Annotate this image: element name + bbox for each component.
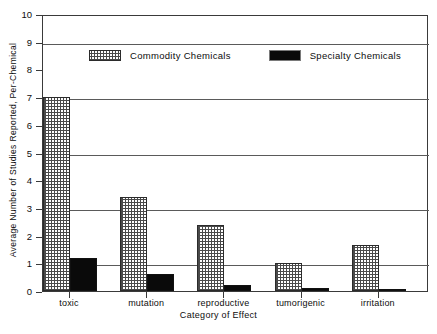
x-tick-label-irritation: irritation xyxy=(333,297,423,309)
y-tick-label: 1 xyxy=(14,259,32,269)
legend-label-commodity: Commodity Chemicals xyxy=(130,50,231,61)
plot-area: Commodity Chemicals Specialty Chemicals xyxy=(42,15,428,292)
bar-chart: Average Number of Studies Reported, Per-… xyxy=(0,0,437,334)
bar-irritation-commodity xyxy=(352,245,379,291)
y-tick-label: 8 xyxy=(14,65,32,75)
y-tick-label: 2 xyxy=(14,232,32,242)
bar-irritation-specialty xyxy=(379,289,406,291)
bar-reproductive-commodity xyxy=(197,225,224,291)
y-tick-label: 5 xyxy=(14,149,32,159)
legend-entry-specialty: Specialty Chemicals xyxy=(269,50,401,61)
x-axis-title: Category of Effect xyxy=(0,310,437,320)
bar-tumorigenic-commodity xyxy=(275,263,302,291)
legend-entry-commodity: Commodity Chemicals xyxy=(89,50,231,61)
y-tick-label: 4 xyxy=(14,176,32,186)
y-tick-label: 3 xyxy=(14,204,32,214)
gridline xyxy=(43,155,429,156)
y-tick-label: 9 xyxy=(14,38,32,48)
chart-legend: Commodity Chemicals Specialty Chemicals xyxy=(89,47,401,63)
y-tick-label: 0 xyxy=(14,287,32,297)
legend-swatch-specialty-icon xyxy=(269,50,301,61)
y-tick-mark xyxy=(36,292,42,293)
bar-toxic-specialty xyxy=(70,258,97,291)
gridline xyxy=(43,210,429,211)
bar-reproductive-specialty xyxy=(224,285,251,291)
bar-mutation-commodity xyxy=(120,197,147,291)
y-tick-label: 10 xyxy=(14,10,32,20)
y-tick-label: 7 xyxy=(14,93,32,103)
legend-label-specialty: Specialty Chemicals xyxy=(310,50,401,61)
gridline xyxy=(43,99,429,100)
gridline xyxy=(43,44,429,45)
y-tick-label: 6 xyxy=(14,121,32,131)
bar-tumorigenic-specialty xyxy=(302,288,329,291)
bar-toxic-commodity xyxy=(43,97,70,291)
legend-swatch-commodity-icon xyxy=(89,50,121,61)
bar-mutation-specialty xyxy=(147,274,174,291)
